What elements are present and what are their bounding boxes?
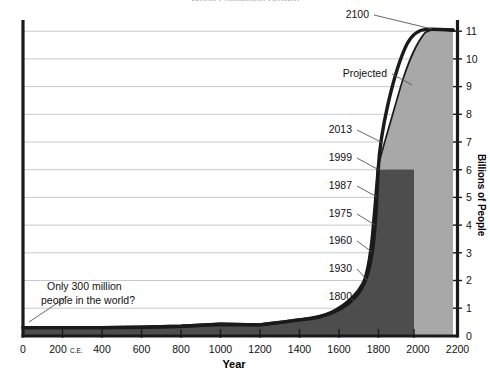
x-axis-title: Year <box>0 358 468 370</box>
x-label-1400: 1400 <box>288 343 312 355</box>
annotation-1930: 1930 <box>329 262 353 274</box>
annotation-1999: 1999 <box>329 151 353 163</box>
x-label-1200: 1200 <box>248 343 272 355</box>
y-label-4: 4 <box>466 219 472 231</box>
y-label-0: 0 <box>466 330 472 342</box>
leader-2100 <box>374 15 432 29</box>
y-axis-title: Billions of People <box>473 130 489 260</box>
leader-1987 <box>357 186 377 197</box>
y-label-11: 11 <box>466 25 477 37</box>
y-label-10: 10 <box>466 53 478 65</box>
chart-canvas: 11 10 9 8 7 6 5 4 3 2 1 0 0 200 C.E. 400… <box>0 0 490 375</box>
x-label-ce-suffix: C.E. <box>70 347 83 354</box>
annotation-2013: 2013 <box>329 123 353 135</box>
leader-2013 <box>357 130 383 143</box>
annotation-1975: 1975 <box>329 207 353 219</box>
annotation-2100: 2100 <box>346 8 370 20</box>
x-label-200: 200 <box>49 343 67 355</box>
y-label-9: 9 <box>466 80 472 92</box>
annotation-1800: 1800 <box>329 290 353 302</box>
y-label-2: 2 <box>466 274 472 286</box>
annotation-projected: Projected <box>343 67 388 79</box>
x-label-1800: 1800 <box>367 343 391 355</box>
x-tick-labels: 0 200 C.E. 400 600 800 1000 1200 1400 16… <box>20 343 469 355</box>
x-label-400: 400 <box>93 343 111 355</box>
annotation-1960: 1960 <box>329 234 353 246</box>
y-label-5: 5 <box>466 191 472 203</box>
y-label-8: 8 <box>466 108 472 120</box>
area-historical-upper <box>378 170 414 336</box>
x-label-2000: 2000 <box>406 343 430 355</box>
x-label-800: 800 <box>172 343 190 355</box>
y-label-6: 6 <box>466 164 472 176</box>
annotation-labels: 2100 Projected 2013 1999 1987 1975 1960 … <box>41 8 387 306</box>
annotation-1987: 1987 <box>329 179 353 191</box>
x-label-600: 600 <box>133 343 151 355</box>
y-label-7: 7 <box>466 136 472 148</box>
x-label-1600: 1600 <box>327 343 351 355</box>
y-label-3: 3 <box>466 247 472 259</box>
annotation-note-line2: people in the world? <box>41 294 135 306</box>
x-label-1000: 1000 <box>209 343 233 355</box>
x-label-0: 0 <box>20 343 26 355</box>
area-historical <box>23 167 414 336</box>
annotation-note-line1: Only 300 million <box>47 280 122 292</box>
x-label-2200: 2200 <box>446 343 470 355</box>
population-growth-chart: World Population Growth <box>0 0 490 375</box>
y-label-1: 1 <box>466 302 472 314</box>
leader-1999 <box>357 158 379 170</box>
